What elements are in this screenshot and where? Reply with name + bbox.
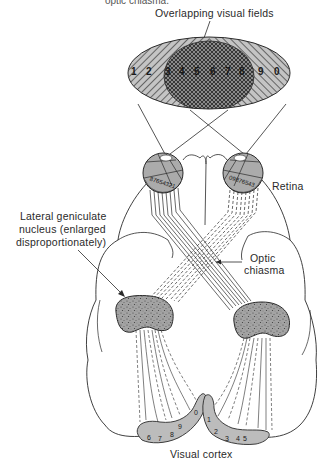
lgn-leader-line bbox=[78, 250, 124, 296]
svg-text:4: 4 bbox=[236, 435, 240, 442]
svg-text:0: 0 bbox=[194, 409, 198, 416]
svg-text:9: 9 bbox=[178, 423, 182, 430]
right-eye: 09876543 bbox=[223, 153, 263, 193]
chiasma-label-line1: Optic bbox=[250, 252, 276, 264]
right-optic-radiation bbox=[214, 338, 272, 430]
svg-text:3: 3 bbox=[225, 435, 229, 442]
svg-text:4: 4 bbox=[179, 66, 185, 77]
svg-text:2: 2 bbox=[146, 66, 152, 77]
svg-text:9: 9 bbox=[258, 66, 264, 77]
left-eye-fibers bbox=[150, 188, 251, 310]
lgn-label-line3: disproportionately) bbox=[16, 236, 106, 248]
svg-text:1: 1 bbox=[207, 416, 211, 423]
svg-text:6: 6 bbox=[147, 434, 151, 441]
svg-text:2: 2 bbox=[214, 428, 218, 435]
svg-text:5: 5 bbox=[194, 66, 200, 77]
left-temporal-fold bbox=[118, 232, 173, 258]
svg-text:5: 5 bbox=[243, 435, 247, 442]
svg-text:1: 1 bbox=[131, 66, 137, 77]
visual-fields-label: Overlapping visual fields bbox=[155, 7, 274, 19]
svg-text:0: 0 bbox=[274, 66, 280, 77]
right-lgn bbox=[234, 302, 290, 338]
chiasma-arrowhead bbox=[216, 260, 221, 265]
lgn-label-line1: Lateral geniculate bbox=[20, 210, 107, 222]
svg-text:7: 7 bbox=[225, 66, 231, 77]
left-frontal-lobe bbox=[183, 155, 206, 225]
left-lgn bbox=[116, 296, 173, 333]
right-eye-fibers bbox=[150, 188, 258, 302]
left-eye: 87654321 bbox=[143, 153, 183, 193]
svg-text:3: 3 bbox=[165, 66, 171, 77]
lgn-label-line2: nucleus (enlarged bbox=[19, 223, 106, 235]
chiasma-label-line2: chiasma bbox=[244, 264, 285, 276]
retina-label: Retina bbox=[272, 180, 304, 192]
visual-fields-leader-line bbox=[204, 21, 210, 38]
left-sulcus bbox=[97, 300, 102, 352]
visual-cortex-label: Visual cortex bbox=[170, 448, 233, 460]
svg-text:6: 6 bbox=[210, 66, 216, 77]
caption-fragment: optic chiasma. bbox=[105, 0, 169, 6]
field-projection-lines bbox=[138, 104, 286, 154]
right-frontal-lobe bbox=[206, 155, 227, 165]
right-sulcus bbox=[302, 310, 311, 355]
svg-text:8: 8 bbox=[239, 66, 245, 77]
svg-text:8: 8 bbox=[170, 431, 174, 438]
visual-pathway-diagram: optic chiasma. Overlapping visual fields… bbox=[0, 0, 336, 462]
left-optic-radiation bbox=[136, 330, 196, 422]
svg-text:7: 7 bbox=[158, 435, 162, 442]
